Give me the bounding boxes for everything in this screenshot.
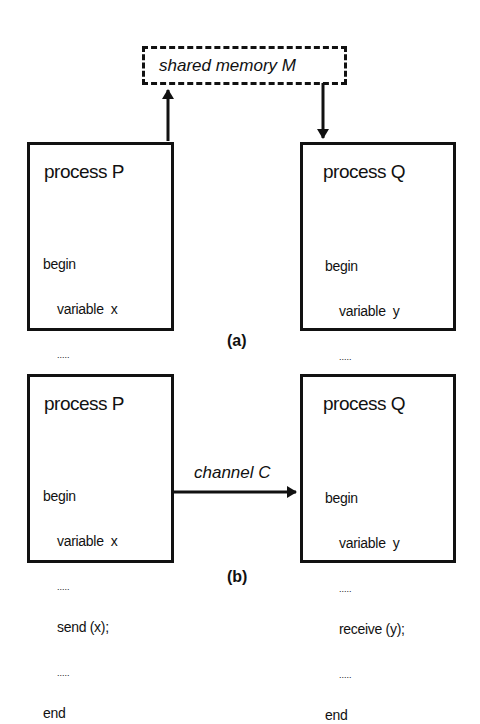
- code-ellipsis: .....: [325, 586, 405, 592]
- code-declaration: variable y: [325, 304, 400, 319]
- code-block: begin variable y ..... receive (y); ....…: [325, 461, 405, 724]
- process-q-box-b: process Q begin variable y ..... receive…: [300, 374, 456, 563]
- process-q-box-a: process Q begin variable y ..... y := M;…: [300, 142, 456, 331]
- process-p-box-a: process P begin variable x ..... M := x;…: [27, 142, 174, 331]
- code-declaration: variable y: [325, 536, 405, 551]
- code-begin: begin: [325, 491, 405, 506]
- process-p-box-b: process P begin variable x ..... send (x…: [27, 374, 174, 563]
- shared-memory-box: shared memory M: [142, 46, 347, 85]
- code-declaration: variable x: [43, 534, 118, 549]
- code-begin: begin: [43, 257, 118, 272]
- code-ellipsis: .....: [325, 354, 400, 360]
- code-ellipsis: .....: [325, 672, 405, 678]
- channel-label: channel C: [194, 463, 271, 483]
- code-ellipsis: .....: [43, 584, 118, 590]
- code-block: begin variable x ..... send (x); ..... e…: [43, 459, 118, 724]
- code-begin: begin: [43, 489, 118, 504]
- process-title: process Q: [323, 393, 405, 415]
- code-begin: begin: [325, 259, 400, 274]
- code-ellipsis: .....: [43, 352, 118, 358]
- process-title: process P: [44, 161, 124, 183]
- caption-a: (a): [227, 332, 247, 350]
- code-end: end: [43, 706, 118, 721]
- shared-memory-label: shared memory M: [159, 56, 296, 76]
- process-title: process Q: [323, 161, 405, 183]
- process-title: process P: [44, 393, 124, 415]
- code-declaration: variable x: [43, 302, 118, 317]
- code-end: end: [325, 708, 405, 723]
- code-statement: send (x);: [43, 620, 118, 635]
- code-statement: receive (y);: [325, 622, 405, 637]
- code-ellipsis: .....: [43, 670, 118, 676]
- caption-b: (b): [227, 568, 247, 586]
